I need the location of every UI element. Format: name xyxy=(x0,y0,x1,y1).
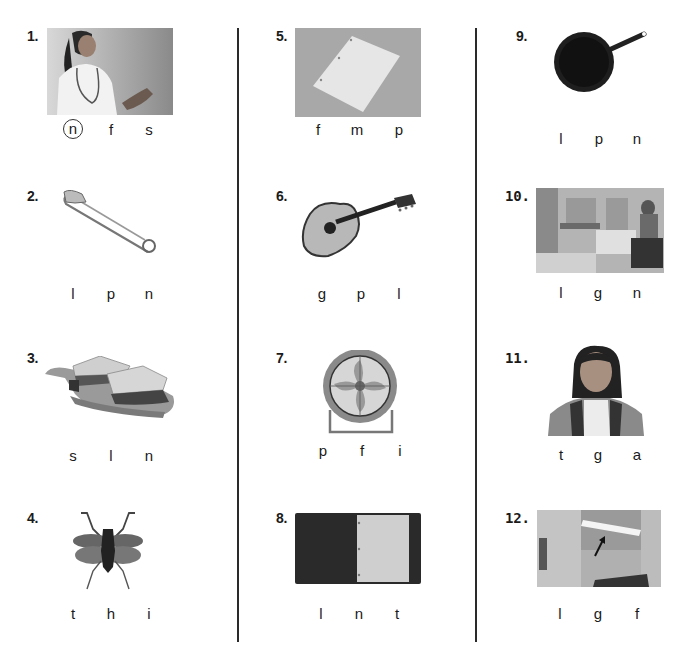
item-7: 7. p f i xyxy=(276,350,476,500)
letter-choice[interactable]: t xyxy=(387,605,407,622)
item-number: 11. xyxy=(505,350,530,366)
letter-choice[interactable]: l xyxy=(551,284,571,301)
letter-choice[interactable]: p xyxy=(389,121,409,138)
letter-choice[interactable]: n xyxy=(627,284,647,301)
letter-choice[interactable]: n xyxy=(349,605,369,622)
item-number: 3. xyxy=(27,350,38,366)
letter-choice[interactable]: i xyxy=(390,442,410,459)
item-2: 2. l p n xyxy=(27,188,227,338)
letter-choice[interactable]: t xyxy=(551,446,571,463)
item-4: 4. t h i xyxy=(27,510,227,659)
letter-choice[interactable]: f xyxy=(627,605,647,622)
insect-image xyxy=(73,511,143,591)
item-number: 7. xyxy=(276,350,287,366)
letter-choice[interactable]: f xyxy=(101,121,121,138)
letter-choice[interactable]: g xyxy=(588,284,608,301)
binder-image xyxy=(295,513,421,584)
letter-choice[interactable]: h xyxy=(101,605,121,622)
paper-image xyxy=(295,28,421,117)
item-number: 12. xyxy=(505,510,530,526)
pan-image xyxy=(554,30,652,94)
nurse-image xyxy=(47,28,173,115)
item-5: 5. f m p xyxy=(276,28,476,178)
letter-choice[interactable]: g xyxy=(588,605,608,622)
letter-choice[interactable]: l xyxy=(389,285,409,302)
letter-choice[interactable]: m xyxy=(347,121,367,138)
item-number: 9. xyxy=(516,28,527,44)
letter-choice[interactable]: l xyxy=(550,605,570,622)
sandwich-image xyxy=(45,356,177,428)
letter-choice[interactable]: n xyxy=(139,285,159,302)
item-number: 10. xyxy=(505,188,530,204)
letter-choice[interactable]: p xyxy=(351,285,371,302)
letter-choice[interactable]: t xyxy=(63,605,83,622)
ceiling-light-image xyxy=(537,510,661,587)
letter-choice-circled[interactable]: n xyxy=(63,119,83,139)
item-1: 1. n f s xyxy=(27,28,227,178)
letter-choice[interactable]: l xyxy=(311,605,331,622)
letter-choice[interactable]: l xyxy=(551,130,571,147)
item-number: 1. xyxy=(27,28,38,44)
fan-image xyxy=(320,350,400,436)
column-divider-left xyxy=(237,28,239,642)
letter-choice[interactable]: n xyxy=(139,447,159,464)
letter-choice[interactable]: i xyxy=(139,605,159,622)
library-image xyxy=(536,188,664,273)
letter-choice[interactable]: f xyxy=(308,121,328,138)
safety-pin-image xyxy=(60,188,160,258)
item-12: 12. l g f xyxy=(505,510,684,659)
item-8: 8. l n t xyxy=(276,510,476,659)
item-11: 11. t g a xyxy=(505,350,684,500)
item-9: 9. l p n xyxy=(516,28,684,178)
item-number: 6. xyxy=(276,188,287,204)
letter-choice[interactable]: a xyxy=(627,446,647,463)
letter-choice[interactable]: l xyxy=(63,285,83,302)
item-6: 6. g p l xyxy=(276,188,476,338)
letter-choice[interactable]: l xyxy=(101,447,121,464)
letter-choice[interactable]: p xyxy=(589,130,609,147)
letter-choice[interactable]: s xyxy=(63,447,83,464)
item-number: 4. xyxy=(27,510,38,526)
item-number: 2. xyxy=(27,188,38,204)
item-number: 5. xyxy=(276,28,287,44)
letter-choice[interactable]: n xyxy=(627,130,647,147)
letter-choice[interactable]: s xyxy=(139,121,159,138)
guitar-image xyxy=(300,190,422,260)
letter-choice[interactable]: g xyxy=(588,446,608,463)
item-number: 8. xyxy=(276,510,287,526)
item-10: 10. l g n xyxy=(505,188,684,338)
letter-choice[interactable]: g xyxy=(312,285,332,302)
letter-choice[interactable]: f xyxy=(352,442,372,459)
item-3: 3. s l n xyxy=(27,350,227,500)
letter-choice[interactable]: p xyxy=(101,285,121,302)
letter-choice[interactable]: p xyxy=(313,442,333,459)
girl-image xyxy=(548,344,644,436)
